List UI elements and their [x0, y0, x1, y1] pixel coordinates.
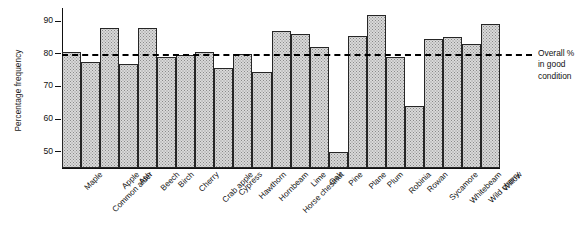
bar — [138, 28, 157, 168]
bar — [367, 15, 386, 168]
bar — [176, 55, 195, 168]
bar-cell — [157, 8, 176, 168]
y-axis-tick-mark — [55, 151, 61, 152]
bar — [233, 54, 252, 168]
y-axis-tick-mark — [55, 21, 61, 22]
y-axis-tick-label: 50 — [43, 146, 53, 156]
bar — [481, 24, 500, 168]
x-axis-category-label: Pine — [347, 170, 365, 188]
bar-cell — [195, 8, 214, 168]
bar — [81, 62, 100, 168]
bar-cell — [176, 8, 195, 168]
y-axis-tick-mark — [55, 53, 61, 54]
bar — [252, 72, 271, 168]
bar — [386, 57, 405, 168]
bar-cell — [81, 8, 100, 168]
bar-cell — [272, 8, 291, 168]
plot-area: 5060708090 — [62, 8, 500, 168]
x-axis-category-label: Plane — [367, 170, 388, 191]
bar — [443, 37, 462, 168]
bar — [195, 52, 214, 168]
x-axis-category-label: Birch — [176, 170, 195, 189]
bar-cell — [424, 8, 443, 168]
bar — [462, 44, 481, 168]
bar-cell — [462, 8, 481, 168]
bar-cell — [367, 8, 386, 168]
bar-cell — [119, 8, 138, 168]
bar-cell — [62, 8, 81, 168]
y-axis-tick-mark — [55, 119, 61, 120]
overall-reference-line — [62, 54, 532, 56]
bar-cell — [443, 8, 462, 168]
x-axis-category-label: Cherry — [197, 170, 221, 194]
bar-cell — [386, 8, 405, 168]
bar-cell — [252, 8, 271, 168]
bar — [310, 47, 329, 168]
bar-cell — [233, 8, 252, 168]
bar — [405, 106, 424, 168]
bar-cell — [310, 8, 329, 168]
bar-cell — [481, 8, 500, 168]
bar — [424, 39, 443, 168]
bar — [214, 68, 233, 168]
bar-cell — [348, 8, 367, 168]
bar-cell — [291, 8, 310, 168]
chart-figure: Percentage frequency 5060708090 Overall … — [0, 0, 584, 240]
y-axis-tick-mark — [55, 86, 61, 87]
x-axis-category-label: Willow — [501, 170, 524, 193]
y-axis-tick-label: 60 — [43, 113, 53, 123]
bar-cell — [100, 8, 119, 168]
bar-series — [62, 8, 500, 168]
y-axis-label: Percentage frequency — [14, 21, 23, 161]
y-axis-tick-label: 70 — [43, 80, 53, 90]
bar-cell — [138, 8, 157, 168]
y-axis-tick-label: 90 — [43, 15, 53, 25]
bar-cell — [329, 8, 348, 168]
bar — [119, 64, 138, 168]
x-axis-category-label: Plum — [386, 170, 405, 189]
bar — [157, 57, 176, 168]
y-axis-tick-label: 80 — [43, 48, 53, 58]
bar — [100, 28, 119, 168]
x-axis-category-labels: MapleCommon alderAppleAshBeechBirchCherr… — [62, 170, 500, 236]
bar — [329, 152, 348, 168]
bar — [272, 31, 291, 168]
overall-annotation-label: Overall % in good condition — [538, 48, 574, 83]
x-axis-category-label: Maple — [82, 170, 104, 192]
bar-cell — [214, 8, 233, 168]
bar-cell — [405, 8, 424, 168]
bar — [62, 52, 81, 168]
